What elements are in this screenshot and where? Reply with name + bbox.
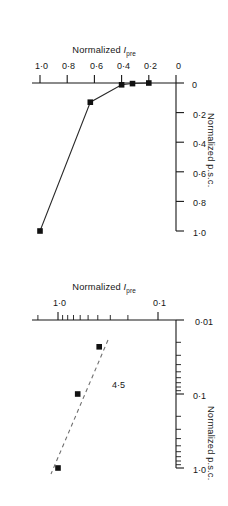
panel-a-ytick-label-3: 0·01 (195, 317, 213, 327)
panel-a-x-axis-title-text: Normalized (72, 282, 123, 292)
data-point (96, 344, 102, 350)
panel-b-x-axis-title-text: Normalized (72, 45, 123, 55)
panel-b-ytick-label-3: 0·6 (193, 169, 206, 179)
data-point (146, 80, 152, 86)
panel-b-data-points (37, 80, 151, 234)
panel-b-ytick-label-2: 0·4 (193, 139, 206, 149)
data-point (130, 81, 136, 87)
panel-b-xtick-label-2: 0·4 (117, 61, 130, 71)
panel-b-y-axis-title: Normalized p.s.c. (206, 113, 216, 187)
panel-a-xtick-label-2: 1·0 (53, 298, 66, 308)
panel-b-ytick-label-5: 1·0 (193, 228, 206, 238)
panel-b-ytick-label-0: 0 (192, 80, 197, 90)
panel-a-ytick-label-1: 1·0 (193, 465, 206, 475)
panel-a-data-points (55, 344, 102, 471)
panel-a-x-axis-title: Normalized Ipre (72, 282, 136, 294)
panel-b-xtick-label-1: 0·2 (144, 61, 157, 71)
panel-b-xtick-label-3: 0·6 (90, 61, 103, 71)
panel-a-fit-line (51, 340, 108, 474)
data-point (119, 82, 125, 88)
figure-root: 1·0 0·1 0·01 0·1 1·0 4·5 Normalized p.s.… (0, 0, 228, 506)
panel-b-y-ticks (176, 83, 184, 231)
panel-b-xtick-label-5: 1·0 (35, 61, 48, 71)
panel-a-y-axis-title: Normalized p.s.c. (206, 406, 216, 480)
data-point (88, 99, 94, 105)
panel-a-y-axis-title-text: Normalized p.s.c. (206, 406, 216, 480)
data-point (37, 228, 43, 234)
panel-a-ytick-label-2: 0·1 (193, 391, 206, 401)
panel-b-ytick-label-4: 0·8 (193, 198, 206, 208)
panel-a-x-minor-ticks (38, 315, 128, 320)
panel-a-xtick-label-1: 0·1 (153, 298, 166, 308)
panel-b-x-axis-title: Normalized Ipre (72, 45, 136, 57)
panel-log-log: 1·0 0·1 0·01 0·1 1·0 4·5 Normalized p.s.… (0, 253, 228, 506)
panel-b-data-line (40, 83, 149, 231)
panel-b-x-axis-title-subscript: pre (126, 50, 136, 57)
panel-b-ytick-label-1: 0·2 (193, 110, 206, 120)
data-point (75, 391, 81, 397)
panel-b-plot-area (0, 0, 228, 253)
panel-a-y-minor-ticks (176, 342, 181, 464)
data-point (55, 465, 61, 471)
panel-linear: 1·0 0·8 0·6 0·4 0·2 0 0 0·2 0·4 0·6 0·8 … (0, 0, 228, 253)
panel-a-x-axis-title-subscript: pre (126, 287, 136, 294)
panel-b-xtick-label-0: 0 (176, 61, 181, 71)
panel-a-x-major-ticks (58, 312, 158, 320)
panel-b-y-axis-title-text: Normalized p.s.c. (206, 113, 216, 187)
panel-b-xtick-label-4: 0·8 (62, 61, 75, 71)
panel-b-x-ticks (40, 75, 176, 83)
panel-a-slope-annotation: 4·5 (112, 380, 125, 390)
